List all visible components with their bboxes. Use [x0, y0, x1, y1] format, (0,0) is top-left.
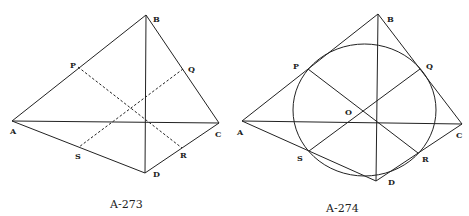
label-b: B — [387, 14, 394, 24]
diagonal-bd — [376, 14, 378, 181]
label-d: D — [388, 177, 395, 187]
quadrilateral-abcd — [242, 14, 462, 181]
label-c: C — [215, 129, 221, 139]
label-q: Q — [426, 61, 433, 71]
caption-a274: A-274 — [325, 202, 359, 215]
label-p: P — [293, 61, 299, 71]
label-s: S — [75, 151, 81, 161]
label-a: A — [9, 126, 17, 136]
chord-qs — [309, 69, 420, 151]
label-b: B — [153, 14, 160, 24]
figures-canvas: B P Q A C S R D A-273 B P Q O A C S R D … — [0, 0, 469, 216]
label-r: R — [422, 154, 429, 164]
diagonal-ac — [242, 121, 462, 124]
dashed-qs — [79, 69, 183, 147]
dashed-pr — [78, 67, 182, 148]
figure-a273: B P Q A C S R D A-273 — [9, 14, 221, 211]
label-q: Q — [188, 64, 195, 74]
diagonal-bd — [145, 15, 146, 173]
diagonal-ac — [12, 121, 219, 123]
label-s: S — [297, 153, 303, 163]
label-r: R — [180, 150, 187, 160]
label-a: A — [236, 127, 244, 137]
label-d: D — [153, 169, 160, 179]
label-o: O — [345, 107, 352, 117]
label-p: P — [70, 60, 76, 70]
label-c: C — [456, 130, 462, 140]
figure-a274: B P Q O A C S R D A-274 — [236, 14, 462, 215]
quadrilateral-abcd — [12, 15, 219, 173]
caption-a273: A-273 — [109, 198, 143, 211]
